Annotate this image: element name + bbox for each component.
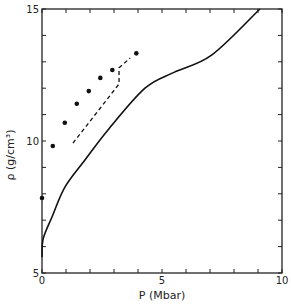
data-point <box>110 68 115 73</box>
data-point <box>40 196 45 201</box>
data-point <box>87 89 92 94</box>
axis-ticks <box>42 9 282 273</box>
x-tick-label: 5 <box>159 275 165 286</box>
tick-labels: 051051015 <box>26 4 288 286</box>
y-tick-label: 5 <box>33 268 39 279</box>
solid-curve <box>42 9 260 257</box>
y-tick-label: 15 <box>26 4 39 15</box>
data-points <box>40 51 139 200</box>
dashed-curve <box>73 58 130 143</box>
data-point <box>134 51 139 56</box>
data-point <box>98 76 103 81</box>
x-axis-label: P (Mbar) <box>139 289 185 302</box>
density-pressure-chart: 051051015 P (Mbar) ρ (g/cm³) <box>0 0 291 308</box>
data-point <box>51 144 56 149</box>
y-axis-label: ρ (g/cm³) <box>4 130 17 181</box>
data-point <box>63 120 68 125</box>
plot-frame <box>42 9 282 273</box>
x-tick-label: 0 <box>39 275 45 286</box>
y-tick-label: 10 <box>26 136 39 147</box>
x-tick-label: 10 <box>276 275 289 286</box>
data-point <box>75 101 80 106</box>
plot-border <box>42 9 282 273</box>
